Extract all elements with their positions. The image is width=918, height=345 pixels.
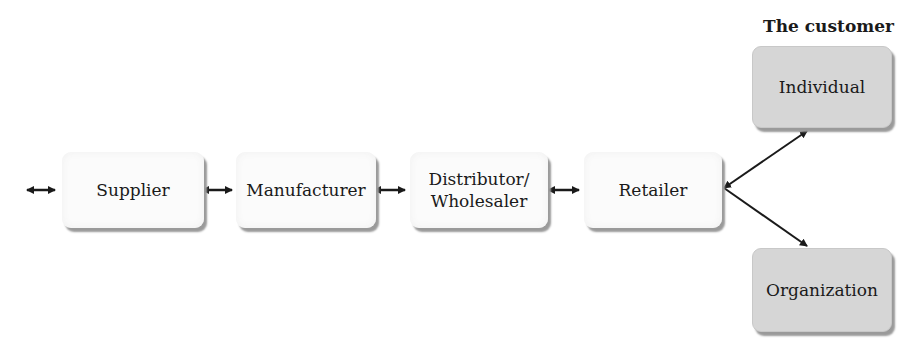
- customer-title: The customer: [763, 16, 894, 36]
- retailer-label: Retailer: [619, 179, 688, 201]
- supplier-box: Supplier: [62, 152, 204, 228]
- distributor-label: Distributor/: [429, 168, 530, 190]
- individual-label: Individual: [779, 76, 865, 98]
- retailer-box: Retailer: [584, 152, 722, 228]
- arrow-to-individual-icon: [724, 131, 807, 188]
- wholesaler-label: Wholesaler: [431, 190, 528, 212]
- manufacturer-box: Manufacturer: [236, 152, 376, 228]
- manufacturer-label: Manufacturer: [246, 179, 365, 201]
- arrow-to-organization-icon: [724, 188, 807, 246]
- organization-label: Organization: [766, 279, 878, 301]
- distributor-wholesaler-box: Distributor/ Wholesaler: [410, 152, 548, 228]
- supplier-label: Supplier: [96, 179, 169, 201]
- individual-box: Individual: [752, 46, 892, 128]
- organization-box: Organization: [752, 248, 892, 332]
